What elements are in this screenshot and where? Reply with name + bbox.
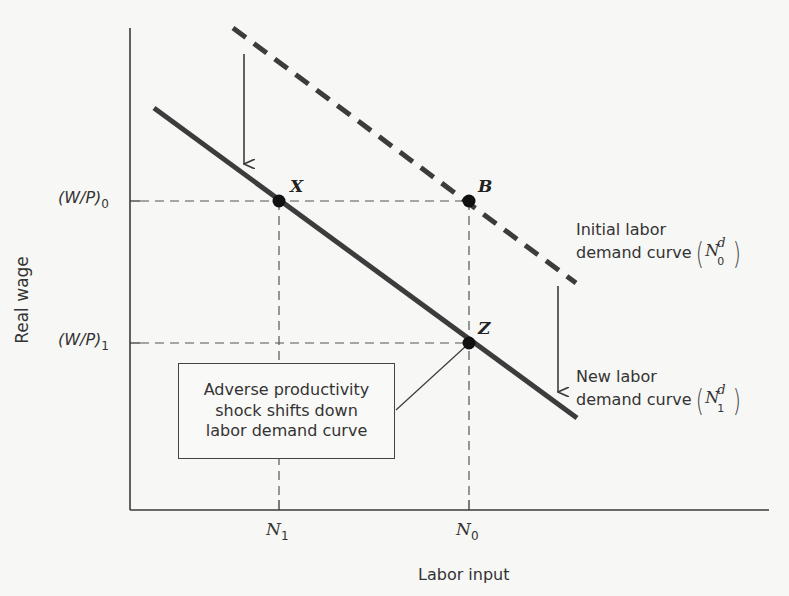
- new-curve-symbol-sub: 1: [717, 402, 724, 416]
- annotation-line3: labor demand curve: [206, 421, 367, 442]
- x-tick-label-n1: N1: [266, 520, 289, 544]
- new-curve-label: New labor demand curve ( N d 1 ): [576, 367, 743, 418]
- new-curve-symbol: ( N d 1 ): [694, 384, 743, 418]
- x-tick-n1-sub: 1: [281, 529, 289, 543]
- point-x: [273, 195, 286, 208]
- diagram-canvas: [0, 0, 789, 596]
- new-curve-line2: demand curve: [576, 390, 692, 411]
- point-label-z: Z: [478, 318, 490, 338]
- point-label-x: X: [290, 176, 303, 196]
- initial-curve-line2: demand curve: [576, 243, 692, 264]
- x-tick-label-n0: N0: [456, 520, 479, 544]
- x-tick-n0-sub: 0: [471, 529, 479, 543]
- x-axis-title: Labor input: [418, 566, 509, 584]
- y-tick-label-wp1: (W/P)1: [58, 331, 109, 354]
- annotation-leader-line: [396, 346, 466, 410]
- annotation-box: Adverse productivity shock shifts down l…: [178, 363, 395, 459]
- y-tick-wp0-base: (W/P): [58, 188, 101, 207]
- initial-labor-demand-curve: [233, 28, 576, 283]
- y-tick-wp1-sub: 1: [101, 339, 109, 353]
- x-tick-n0-base: N: [456, 519, 471, 539]
- x-tick-n1-base: N: [266, 519, 281, 539]
- initial-curve-label: Initial labor demand curve ( N d 0 ): [576, 220, 743, 271]
- initial-curve-symbol: ( N d 0 ): [694, 237, 743, 271]
- initial-curve-symbol-sup: d: [717, 235, 725, 252]
- new-curve-symbol-sup: d: [717, 382, 725, 399]
- y-tick-wp1-base: (W/P): [58, 330, 101, 349]
- annotation-line2: shock shifts down: [215, 401, 358, 422]
- y-tick-label-wp0: (W/P)0: [58, 189, 109, 212]
- point-label-b: B: [478, 176, 492, 196]
- point-z: [463, 337, 476, 350]
- initial-curve-symbol-sub: 0: [717, 255, 724, 269]
- annotation-line1: Adverse productivity: [204, 380, 370, 401]
- y-axis-title: Real wage: [12, 256, 32, 344]
- point-b: [463, 195, 476, 208]
- y-tick-wp0-sub: 0: [101, 197, 109, 211]
